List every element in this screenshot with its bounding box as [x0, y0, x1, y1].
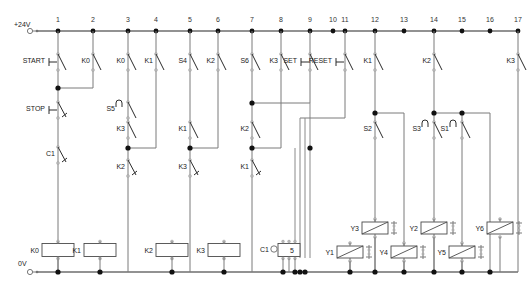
contact-k3-r17[interactable]: K3 [506, 53, 526, 72]
terminal-bottom [433, 69, 436, 72]
junction-node [459, 110, 464, 115]
terminal-bottom [251, 175, 254, 178]
contact-k2-r6[interactable]: K2 [206, 53, 226, 72]
supply-bottom-label: 0V [18, 260, 27, 267]
terminal-bottom [57, 117, 60, 120]
coil-label: K0 [30, 247, 39, 254]
contact-k0-r3[interactable]: K0 [116, 53, 136, 72]
junction-node [372, 110, 377, 115]
junction-node [372, 269, 377, 274]
contact-arm [93, 54, 101, 70]
coil-body [156, 244, 188, 257]
relay-coil-k2[interactable]: K2 [144, 240, 188, 272]
contact-c1-nc[interactable]: C1 [46, 146, 67, 165]
contact-k2-r3c[interactable]: K2 [116, 159, 137, 178]
ladder-diagram-canvas: +24V 0V 1234567891011121314151617 [0, 0, 532, 296]
detent-dot-b [452, 229, 454, 231]
terminal-bottom [433, 137, 436, 140]
contact-k3-r3b[interactable]: K3 [116, 121, 136, 140]
contact-start[interactable]: START [23, 53, 66, 72]
relay-coil-k1[interactable]: K1 [72, 240, 116, 272]
terminal-bottom [461, 137, 464, 140]
roller-lever [116, 100, 122, 107]
rail-tap-16 [488, 29, 493, 34]
contact-k0-seal[interactable]: K0 [81, 53, 101, 72]
valve-coil-y6[interactable]: Y6 [475, 218, 522, 273]
rung-number-14: 14 [430, 16, 438, 23]
contact-k2-r7b[interactable]: K2 [240, 121, 260, 140]
terminal-bottom [189, 137, 192, 140]
contact-label: K0 [81, 57, 90, 64]
detent-dot-a [368, 249, 370, 251]
detent-dot-a [393, 225, 395, 227]
contact-s2[interactable]: S2 [363, 121, 383, 140]
valve-coil-y2[interactable]: Y2 [409, 218, 456, 273]
contact-s5[interactable]: S5 [106, 100, 136, 120]
ladder-diagram-svg: +24V 0V 1234567891011121314151617 [0, 0, 532, 296]
coil-body [42, 244, 74, 257]
terminal-bottom [189, 175, 192, 178]
contact-s4[interactable]: S4 [178, 53, 198, 72]
relay-coil-k0[interactable]: K0 [30, 240, 74, 272]
detent-dot-a [480, 249, 482, 251]
valve-coil-y3[interactable]: Y3 [350, 218, 397, 273]
contact-k1-r5b[interactable]: K1 [178, 121, 198, 140]
junction-node [401, 269, 406, 274]
rung-number-8: 8 [279, 16, 283, 23]
rung-number-16: 16 [486, 16, 494, 23]
terminal-bottom [374, 137, 377, 140]
rung-number-12: 12 [371, 16, 379, 23]
terminal-bottom [251, 137, 254, 140]
junction-node [297, 269, 302, 274]
contact-stop[interactable]: STOP [26, 101, 67, 120]
valve-coil-y1[interactable]: Y1 [325, 242, 372, 273]
counter-terminal-top-1 [288, 240, 291, 243]
power-rail-top: +24V [14, 21, 518, 34]
rung-number-1: 1 [56, 16, 60, 23]
contact-k1-r7c[interactable]: K1 [240, 159, 261, 178]
contact-k1-r12[interactable]: K1 [363, 53, 383, 72]
terminal-bottom [280, 69, 283, 72]
contact-label: K3 [269, 57, 278, 64]
rung-number-5: 5 [188, 16, 192, 23]
contact-label: START [23, 57, 46, 64]
counter-label: C1 [260, 246, 269, 253]
contact-s3[interactable]: S3 [412, 120, 442, 140]
contact-label: SET [283, 57, 297, 64]
contact-arm [58, 54, 66, 70]
supply-top-label: +24V [14, 21, 31, 28]
rung-number-10: 10 [329, 16, 337, 23]
terminal-bottom [189, 69, 192, 72]
contact-arm [128, 102, 136, 118]
valve-coil-y4[interactable]: Y4 [379, 242, 426, 273]
contact-reset[interactable]: RESET [309, 53, 353, 72]
rail-tap-15 [460, 29, 465, 34]
counter-c1[interactable]: C15 [260, 240, 300, 272]
counter-terminal-ring [271, 246, 277, 252]
coil-body [208, 244, 240, 257]
contact-s1[interactable]: S1 [440, 120, 470, 140]
contact-arm [462, 122, 470, 138]
relay-coil-k3[interactable]: K3 [196, 240, 240, 272]
contact-arm [128, 54, 136, 70]
contact-label: S3 [412, 125, 421, 132]
contact-arm [190, 54, 198, 70]
junction-node [280, 269, 285, 274]
contact-arm [434, 54, 442, 70]
counter-preset-value: 5 [290, 247, 294, 254]
coil-label: K2 [144, 247, 153, 254]
contact-label: K3 [116, 125, 125, 132]
counter-layer: C15 [260, 240, 300, 272]
contact-k3-r5c[interactable]: K3 [178, 159, 199, 178]
rung-number-13: 13 [400, 16, 408, 23]
contact-k1-r4[interactable]: K1 [144, 53, 164, 72]
contact-arm [128, 122, 136, 138]
contact-k2-r14[interactable]: K2 [422, 53, 442, 72]
valve-coil-y5[interactable]: Y5 [437, 242, 484, 273]
junction-node [55, 85, 60, 90]
detent-dot-a [452, 225, 454, 227]
contact-label: K3 [178, 163, 187, 170]
rung-number-9: 9 [308, 16, 312, 23]
contact-s6[interactable]: S6 [240, 53, 260, 72]
junction-node [55, 269, 60, 274]
